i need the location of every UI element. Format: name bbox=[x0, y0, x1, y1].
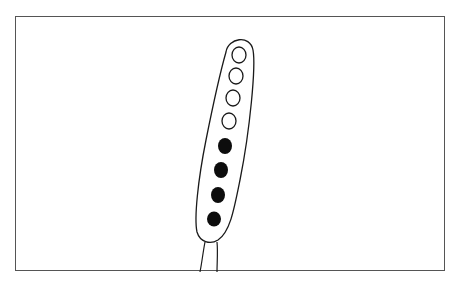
light-spore-icon bbox=[222, 113, 236, 129]
dark-spore-icon bbox=[211, 187, 225, 203]
light-spore-icon bbox=[226, 90, 240, 106]
ascus-stalk-left bbox=[200, 242, 205, 272]
light-spore-icon bbox=[232, 47, 246, 63]
ascus-diagram bbox=[0, 0, 462, 287]
dark-spore-icon bbox=[214, 162, 228, 178]
dark-spore-icon bbox=[207, 212, 221, 227]
light-spore-icon bbox=[229, 68, 243, 84]
dark-spore-icon bbox=[218, 138, 232, 154]
